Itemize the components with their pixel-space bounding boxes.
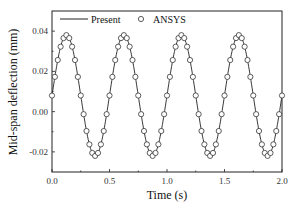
ansys-data-point	[55, 57, 60, 62]
y-tick-label: 0.02	[32, 66, 48, 76]
ansys-data-point	[274, 128, 279, 133]
ansys-data-point	[101, 128, 106, 133]
x-tick-label: 0.0	[46, 176, 58, 186]
ansys-data-point	[199, 128, 204, 133]
x-axis-label: Time (s)	[147, 188, 188, 202]
ansys-data-point	[116, 44, 121, 49]
y-tick-label: 0.00	[32, 107, 48, 117]
ansys-data-point	[104, 112, 109, 117]
ansys-data-point	[187, 57, 192, 62]
ansys-data-point	[130, 57, 135, 62]
ansys-data-point	[58, 44, 63, 49]
ansys-data-point	[219, 112, 224, 117]
x-tick-label: 1.5	[219, 176, 231, 186]
ansys-data-point	[81, 112, 86, 117]
ansys-data-point	[49, 93, 54, 98]
axis-ticks: 0.00.51.01.52.0-0.020.000.020.04	[29, 26, 288, 186]
y-tick-label: -0.02	[29, 147, 48, 157]
legend-present-label: Present	[91, 14, 121, 25]
ansys-data-point	[259, 142, 264, 147]
plot-frame	[52, 11, 282, 172]
ansys-data-point	[279, 93, 284, 98]
deflection-chart: 0.00.51.01.52.0-0.020.000.020.04 Present…	[0, 0, 302, 214]
ansys-data-point	[159, 128, 164, 133]
ansys-data-point	[87, 142, 92, 147]
ansys-data-point	[156, 142, 161, 147]
ansys-data-point	[193, 93, 198, 98]
ansys-data-point	[256, 128, 261, 133]
ansys-data-point	[141, 128, 146, 133]
ansys-data-point	[190, 74, 195, 79]
ansys-data-point	[84, 128, 89, 133]
ansys-data-point	[170, 57, 175, 62]
ansys-data-point	[110, 74, 115, 79]
ansys-data-point	[162, 112, 167, 117]
ansys-data-point	[70, 44, 75, 49]
ansys-data-point	[182, 36, 187, 41]
ansys-data-point	[277, 112, 282, 117]
ansys-data-point	[124, 36, 129, 41]
ansys-data-point	[210, 150, 215, 155]
x-tick-label: 1.0	[161, 176, 173, 186]
ansys-data-point	[248, 74, 253, 79]
legend-ansys-label: ANSYS	[153, 14, 186, 25]
y-tick-label: 0.04	[32, 26, 48, 36]
ansys-data-point	[202, 142, 207, 147]
ansys-data-point	[216, 128, 221, 133]
x-tick-label: 0.5	[104, 176, 116, 186]
ansys-data-point	[139, 112, 144, 117]
ansys-data-point	[167, 74, 172, 79]
ansys-data-point	[225, 74, 230, 79]
ansys-data-point	[136, 93, 141, 98]
ansys-data-point	[52, 74, 57, 79]
ansys-data-point	[75, 74, 80, 79]
ansys-data-point	[107, 93, 112, 98]
ansys-data-point	[242, 44, 247, 49]
ansys-data-point	[268, 150, 273, 155]
ansys-series-markers	[49, 33, 284, 159]
ansys-data-point	[72, 57, 77, 62]
ansys-data-point	[222, 93, 227, 98]
ansys-data-point	[144, 142, 149, 147]
ansys-data-point	[153, 150, 158, 155]
ansys-data-point	[95, 150, 100, 155]
x-tick-label: 2.0	[276, 176, 288, 186]
ansys-data-point	[239, 36, 244, 41]
ansys-data-point	[173, 44, 178, 49]
ansys-data-point	[271, 142, 276, 147]
ansys-data-point	[231, 44, 236, 49]
ansys-data-point	[67, 36, 72, 41]
ansys-data-point	[127, 44, 132, 49]
ansys-data-point	[228, 57, 233, 62]
ansys-data-point	[133, 74, 138, 79]
ansys-data-point	[245, 57, 250, 62]
ansys-data-point	[164, 93, 169, 98]
ansys-data-point	[213, 142, 218, 147]
legend: Present ANSYS	[60, 14, 186, 25]
y-axis-label: Mid-span deflection (mm)	[6, 29, 20, 156]
ansys-data-point	[254, 112, 259, 117]
ansys-data-point	[196, 112, 201, 117]
ansys-data-point	[185, 44, 190, 49]
ansys-data-point	[113, 57, 118, 62]
ansys-data-point	[98, 142, 103, 147]
ansys-data-point	[78, 93, 83, 98]
ansys-data-point	[251, 93, 256, 98]
legend-circle-icon	[138, 16, 143, 21]
